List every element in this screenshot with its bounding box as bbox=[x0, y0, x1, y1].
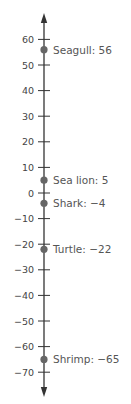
point-marker bbox=[40, 46, 47, 53]
tick-label: −40 bbox=[14, 290, 34, 301]
data-point-seagull: Seagull: 56 bbox=[40, 44, 112, 56]
tick-label: 60 bbox=[22, 34, 34, 45]
data-points: Seagull: 56Sea lion: 5Shark: −4Turtle: −… bbox=[40, 44, 119, 366]
arrow-up-icon bbox=[41, 13, 47, 23]
data-point-sea-lion: Sea lion: 5 bbox=[40, 174, 108, 186]
point-label: Sea lion: 5 bbox=[53, 174, 108, 186]
data-point-turtle: Turtle: −22 bbox=[40, 243, 111, 255]
point-marker bbox=[40, 200, 47, 207]
number-line-chart: 6050403020100−10−20−30−40−50−60−70 Seagu… bbox=[0, 0, 131, 404]
point-marker bbox=[40, 177, 47, 184]
tick-label: 0 bbox=[28, 188, 34, 199]
point-marker bbox=[40, 356, 47, 363]
tick-label: −20 bbox=[14, 239, 34, 250]
point-label: Shark: −4 bbox=[53, 197, 106, 209]
point-label: Seagull: 56 bbox=[53, 44, 112, 56]
tick-label: 50 bbox=[22, 60, 34, 71]
tick-label: −60 bbox=[14, 341, 34, 352]
tick-label: −30 bbox=[14, 264, 34, 275]
tick-label: 40 bbox=[22, 85, 34, 96]
tick-label: 20 bbox=[22, 136, 34, 147]
tick-label: −50 bbox=[14, 316, 34, 327]
tick-label: 10 bbox=[22, 162, 34, 173]
point-label: Turtle: −22 bbox=[52, 243, 111, 255]
data-point-shrimp: Shrimp: −65 bbox=[40, 353, 119, 365]
tick-label: −10 bbox=[14, 213, 34, 224]
tick-label: 30 bbox=[22, 111, 34, 122]
arrow-down-icon bbox=[41, 387, 47, 397]
point-label: Shrimp: −65 bbox=[53, 353, 119, 365]
data-point-shark: Shark: −4 bbox=[40, 197, 105, 209]
tick-label: −70 bbox=[14, 367, 34, 378]
point-marker bbox=[40, 246, 47, 253]
